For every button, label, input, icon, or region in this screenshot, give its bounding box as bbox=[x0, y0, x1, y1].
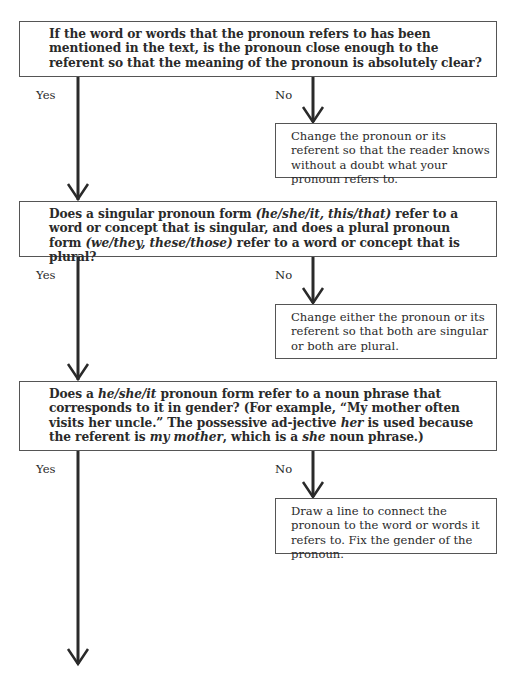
question-3-text: Does a bbox=[49, 387, 98, 401]
question-box-2: Does a singular pronoun form (he/she/it,… bbox=[19, 201, 497, 257]
question-3-emphasis: she bbox=[302, 430, 325, 444]
question-1-text: If the word or words that the pronoun re… bbox=[49, 27, 482, 70]
action-box-2: Change either the pronoun or its referen… bbox=[275, 304, 497, 359]
action-box-1: Change the pronoun or its referent so th… bbox=[275, 123, 497, 178]
yes-label-3: Yes bbox=[36, 462, 55, 476]
action-2-text: Change either the pronoun or its referen… bbox=[291, 310, 488, 353]
yes-label-2: Yes bbox=[36, 268, 55, 282]
question-2-emphasis: (he/she/it, this/that) bbox=[256, 207, 392, 221]
action-3-text: Draw a line to connect the pronoun to th… bbox=[291, 504, 480, 561]
action-box-3: Draw a line to connect the pronoun to th… bbox=[275, 498, 497, 554]
no-label-2: No bbox=[275, 268, 292, 282]
question-3-text: noun phrase.) bbox=[325, 430, 423, 444]
action-1-text: Change the pronoun or its referent so th… bbox=[291, 129, 490, 186]
no-label-3: No bbox=[275, 462, 292, 476]
question-2-text: Does a singular pronoun form bbox=[49, 207, 256, 221]
question-3-emphasis: my mother bbox=[150, 430, 223, 444]
question-3-emphasis: her bbox=[341, 416, 364, 430]
question-3-emphasis: he/she/it bbox=[98, 387, 156, 401]
question-3-text: , which is a bbox=[223, 430, 303, 444]
no-label-1: No bbox=[275, 88, 292, 102]
question-box-3: Does a he/she/it pronoun form refer to a… bbox=[19, 381, 497, 451]
yes-label-1: Yes bbox=[36, 88, 55, 102]
question-box-1: If the word or words that the pronoun re… bbox=[19, 21, 497, 77]
question-2-emphasis: (we/they, these/those) bbox=[85, 236, 232, 250]
